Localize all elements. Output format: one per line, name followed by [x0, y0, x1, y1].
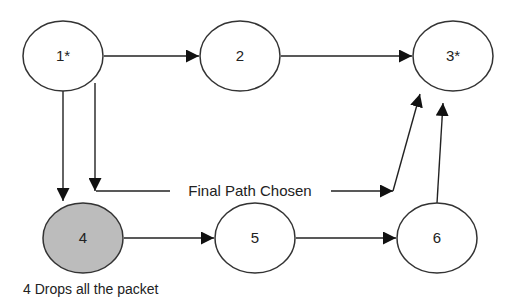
node-2: 2	[200, 21, 280, 91]
node-3: 3*	[413, 21, 493, 91]
edge-6-to-3	[437, 103, 443, 203]
node-6-label: 6	[433, 229, 441, 246]
drop-note: 4 Drops all the packet	[23, 281, 159, 297]
node-2-label: 2	[236, 47, 244, 64]
network-diagram: Final Path Chosen 1* 2 3* 4 5 6 4 Drops …	[0, 0, 513, 304]
final-path-up	[393, 94, 420, 191]
final-path-label: Final Path Chosen	[188, 182, 311, 199]
node-3-label: 3*	[446, 47, 460, 64]
node-6: 6	[397, 203, 477, 273]
node-4-dropped: 4	[43, 203, 123, 273]
node-1: 1*	[23, 21, 103, 91]
node-4-label: 4	[79, 229, 87, 246]
node-1-label: 1*	[56, 47, 70, 64]
node-5-label: 5	[251, 229, 259, 246]
node-5: 5	[215, 203, 295, 273]
